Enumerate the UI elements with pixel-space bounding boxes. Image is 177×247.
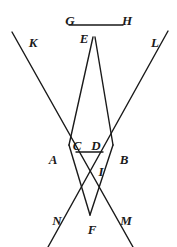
geometry-figure: GHKLECDABINFM <box>0 0 177 247</box>
point-label-h: H <box>122 14 132 27</box>
point-label-i: I <box>98 165 103 178</box>
line-e-to-f-left <box>69 37 93 145</box>
point-label-b: B <box>120 153 129 166</box>
point-label-l: L <box>151 36 159 49</box>
segment-layer <box>12 25 168 247</box>
point-label-e: E <box>80 32 89 45</box>
point-label-c: C <box>73 139 82 152</box>
point-label-g: G <box>65 14 74 27</box>
line-l-to-n <box>48 31 168 247</box>
point-label-k: K <box>29 36 38 49</box>
point-label-n: N <box>52 214 61 227</box>
point-label-f: F <box>88 223 97 236</box>
line-e-to-f-right <box>95 37 113 145</box>
point-label-d: D <box>91 139 100 152</box>
point-label-m: M <box>120 214 132 227</box>
point-label-a: A <box>49 153 58 166</box>
